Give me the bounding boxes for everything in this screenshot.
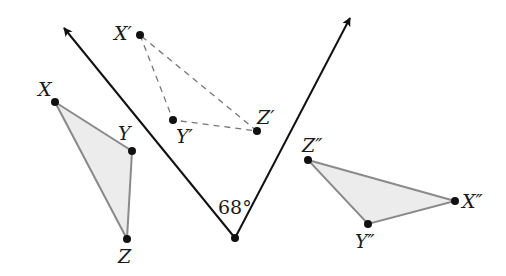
- label-z: Z: [118, 247, 131, 266]
- point-z-prime: [253, 127, 261, 135]
- angle-label: 68°: [218, 198, 252, 217]
- label-x-double-prime: X″: [462, 192, 483, 211]
- label-x-prime: X′: [114, 24, 132, 43]
- label-z-prime: Z′: [257, 108, 275, 127]
- point-z-double-prime: [304, 156, 312, 164]
- label-y-double-prime: Y″: [355, 232, 375, 251]
- point-y: [128, 147, 136, 155]
- diagram-canvas: [0, 0, 506, 276]
- label-x: X: [38, 80, 52, 99]
- reflection-line-right-ray: [235, 18, 350, 238]
- point-x-double-prime: [451, 197, 459, 205]
- label-z-double-prime: Z″: [302, 136, 322, 155]
- point-y-prime: [169, 116, 177, 124]
- point-x: [51, 98, 59, 106]
- label-y: Y: [118, 124, 131, 143]
- point-x-prime: [136, 31, 144, 39]
- angle-vertex: [231, 234, 239, 242]
- label-y-prime: Y′: [176, 127, 193, 146]
- triangle-x-double-prime: [308, 160, 455, 224]
- point-y-double-prime: [364, 220, 372, 228]
- triangle-x-prime-y-prime-z-prime: [140, 35, 257, 131]
- point-z: [123, 235, 131, 243]
- reflection-diagram: X Y Z X′ Y′ Z′ Z″ X″ Y″ 68°: [0, 0, 506, 276]
